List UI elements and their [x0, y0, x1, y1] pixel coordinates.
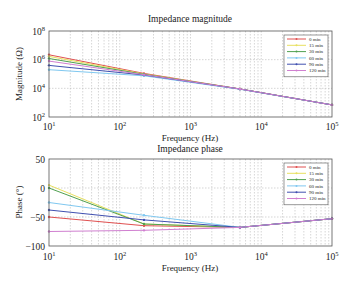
- legend-label: 60 min: [309, 184, 324, 189]
- legend-label: 30 min: [309, 177, 324, 182]
- legend-label: 120 min: [309, 196, 326, 201]
- y-tick-label: 102: [32, 111, 45, 123]
- x-tick-label: 101: [43, 120, 56, 132]
- data-point: [143, 223, 145, 225]
- data-point: [239, 88, 241, 90]
- phase-xlabel: Frequency (Hz): [162, 263, 219, 273]
- x-tick-label: 102: [113, 250, 126, 262]
- data-point: [143, 219, 145, 221]
- legend-label: 90 min: [309, 62, 324, 67]
- x-tick-label: 103: [184, 250, 197, 262]
- x-tick-label: 102: [113, 120, 126, 132]
- legend-label: 90 min: [309, 190, 324, 195]
- magnitude-title: Impedance magnitude: [148, 14, 232, 24]
- legend-label: 60 min: [309, 56, 324, 61]
- legend-label: 0 min: [309, 37, 321, 42]
- legend-label: 15 min: [309, 171, 324, 176]
- y-tick-label: −50: [30, 213, 45, 223]
- data-point: [143, 73, 145, 75]
- data-point: [143, 229, 145, 231]
- legend-label: 15 min: [309, 43, 324, 48]
- x-tick-label: 104: [255, 120, 269, 132]
- magnitude-y-ticks: 108106104102: [32, 25, 46, 123]
- legend-label: 120 min: [309, 68, 326, 73]
- x-tick-label: 105: [326, 250, 339, 262]
- y-tick-label: 108: [32, 25, 45, 37]
- phase-x-ticks: 101102103104105: [43, 250, 339, 262]
- legend-label: 30 min: [309, 49, 324, 54]
- phase-legend: 0 min15 min30 min60 min90 min120 min: [284, 163, 328, 205]
- y-tick-label: −100: [25, 242, 45, 252]
- y-tick-label: 0: [40, 184, 45, 194]
- phase-ylabel: Phase (°): [14, 186, 24, 219]
- legend-label: 0 min: [309, 165, 321, 170]
- figure: Impedance magnitude 108106104102 1011021…: [0, 0, 359, 293]
- x-tick-label: 101: [43, 250, 56, 262]
- x-tick-label: 105: [326, 120, 339, 132]
- magnitude-xlabel: Frequency (Hz): [162, 133, 219, 143]
- phase-y-ticks: 500−50−100: [25, 155, 45, 252]
- y-tick-label: 50: [36, 155, 46, 165]
- magnitude-plot: Impedance magnitude 108106104102 1011021…: [14, 14, 338, 143]
- y-tick-label: 104: [32, 82, 46, 94]
- magnitude-x-ticks: 101102103104105: [43, 120, 339, 132]
- x-tick-label: 104: [255, 250, 269, 262]
- phase-title: Impedance phase: [157, 144, 223, 154]
- x-tick-label: 103: [184, 120, 197, 132]
- y-tick-label: 106: [32, 53, 46, 65]
- magnitude-ylabel: Magnitude (Ω): [14, 47, 24, 101]
- magnitude-legend: 0 min15 min30 min60 min90 min120 min: [284, 35, 328, 77]
- data-point: [143, 214, 145, 216]
- phase-plot: Impedance phase 500−50−100 1011021031041…: [14, 144, 338, 273]
- data-point: [239, 226, 241, 228]
- series-line: [49, 210, 332, 227]
